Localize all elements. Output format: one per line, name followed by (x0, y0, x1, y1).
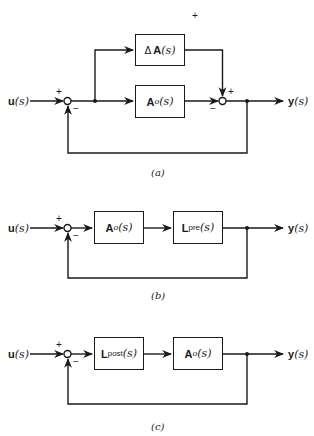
caption-b: (b) (151, 291, 165, 301)
diagram-c-wires (30, 351, 283, 405)
output-label-y: y(s) (288, 349, 308, 360)
block-a-o: Ao(s) (135, 85, 185, 118)
input-label-u: u(s) (8, 223, 29, 234)
block-a-o: Ao(s) (173, 337, 223, 370)
sum-plus-sign: + (56, 340, 62, 350)
input-label-u: u(s) (8, 96, 29, 107)
block-l-post: Lpost(s) (94, 337, 144, 370)
output-label-y: y(s) (288, 223, 308, 234)
diagram-b-wires (30, 225, 283, 279)
input-label-u: u(s) (8, 349, 29, 360)
top-plus-sign: + (192, 11, 198, 21)
sum-plus-sign: + (56, 214, 62, 224)
block-a-o: Ao(s) (94, 211, 144, 244)
caption-c: (c) (151, 422, 164, 432)
sum-minus-sign: − (73, 231, 79, 241)
sum1-minus-sign: − (73, 104, 79, 114)
sum2-plus-sign: + (228, 87, 234, 97)
block-l-pre: Lpre(s) (173, 211, 223, 244)
caption-a: (a) (151, 168, 165, 178)
block-delta-a: ΔA(s) (135, 34, 185, 66)
sum-minus-sign: − (73, 357, 79, 367)
output-label-y: y(s) (288, 96, 308, 107)
sum1-plus-sign: + (56, 87, 62, 97)
sum2-minus-sign: − (210, 104, 216, 114)
